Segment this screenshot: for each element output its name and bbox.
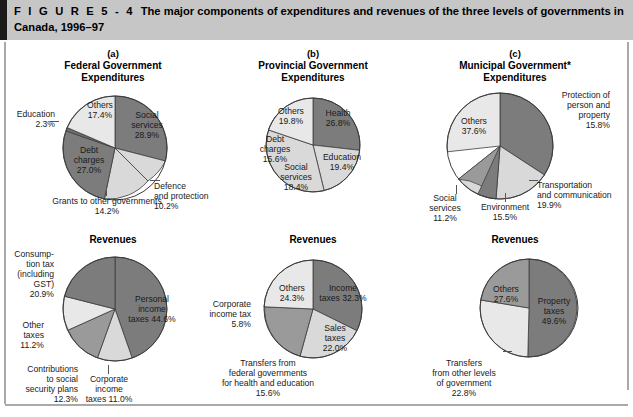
label-protection-person-property: Protection of person and property 15.8% xyxy=(534,90,610,130)
label-income-taxes-provincial: Income taxes 32.3% xyxy=(313,283,373,303)
leader-grants xyxy=(106,186,107,196)
leader-corporate-federal xyxy=(108,365,109,374)
panel-letter-c: (c) xyxy=(410,48,620,59)
leader-social-municipal xyxy=(456,185,457,194)
label-debt-charges-provincial: Debt charges 15.6% xyxy=(253,134,297,164)
label-corporate-income-tax-provincial: Corporate income tax 5.8% xyxy=(189,299,251,329)
label-consumption-tax-gst: Consump- tion tax (including GST) 20.9% xyxy=(0,249,54,299)
right-rule xyxy=(627,42,629,390)
panel-title-a: Federal Government Expenditures xyxy=(8,60,218,83)
panel-title-c-line1: Municipal Government* xyxy=(410,60,620,72)
label-others-municipal-exp: Others 37.6% xyxy=(450,116,498,136)
label-transfers-federal-health-education: Transfers from federal governments for h… xyxy=(209,358,327,398)
label-environment-municipal: Environment 15.5% xyxy=(474,202,536,222)
label-social-services-federal: Social services 28.9% xyxy=(121,110,173,140)
panel-title-c-line2: Expenditures xyxy=(410,72,620,84)
figure-number: F I G U R E 5 - 4 xyxy=(14,5,135,17)
panel-title-provincial-revenues-text: Revenues xyxy=(208,234,418,246)
panel-title-c: Municipal Government* Expenditures xyxy=(410,60,620,83)
label-others-provincial-exp: Others 19.8% xyxy=(267,106,315,126)
label-transfers-other-levels: Transfers from other levels of governmen… xyxy=(418,358,510,398)
panel-title-b: Provincial Government Expenditures xyxy=(208,60,418,83)
label-health-provincial: Health 26.8% xyxy=(316,108,360,128)
bottom-rule xyxy=(5,404,628,406)
panel-title-b-line1: Provincial Government xyxy=(208,60,418,72)
label-education-federal: Education 2.3% xyxy=(0,109,55,129)
panel-title-federal-revenues-text: Revenues xyxy=(8,234,218,246)
label-social-services-provincial: Social services 18.4% xyxy=(272,162,320,192)
panel-letter-b: (b) xyxy=(208,48,418,59)
label-personal-income-taxes: Personal income taxes 44.6% xyxy=(119,294,185,324)
leader-education xyxy=(50,121,59,122)
header-accent-bar xyxy=(0,0,7,40)
panel-title-municipal-revenues-text: Revenues xyxy=(410,234,620,246)
leader-environment xyxy=(505,193,506,202)
panel-title-a-line2: Expenditures xyxy=(8,72,218,84)
panel-title-a-line1: Federal Government xyxy=(8,60,218,72)
label-social-services-municipal: Social services 11.2% xyxy=(421,193,469,223)
leader-defence xyxy=(150,180,160,181)
label-grants-other-governments: Grants to other governments 14.2% xyxy=(32,196,182,216)
panel-title-provincial-revenues: Revenues xyxy=(208,234,418,246)
leader-transfers-municipal xyxy=(503,351,512,352)
leader-transportation xyxy=(529,180,538,181)
label-others-municipal-rev: Others 27.6% xyxy=(482,284,530,304)
figure-header: F I G U R E 5 - 4The major components of… xyxy=(0,0,633,40)
label-others-federal-exp: Others 17.4% xyxy=(76,100,124,120)
label-sales-taxes-provincial: Sales taxes 22.0% xyxy=(313,323,357,353)
label-contributions-social-security: Contributions to social security plans 1… xyxy=(0,364,78,404)
panel-letter-a: (a) xyxy=(8,48,218,59)
label-other-taxes-federal: Other taxes 11.2% xyxy=(0,320,44,350)
label-property-taxes: Property taxes 49.6% xyxy=(529,296,579,326)
label-others-provincial-rev: Others 24.3% xyxy=(268,283,316,303)
label-transportation-communication: Transportation and communication 19.9% xyxy=(537,180,629,210)
label-debt-charges-federal: Debt charges 27.0% xyxy=(64,145,114,175)
panel-title-b-line2: Expenditures xyxy=(208,72,418,84)
figure-caption: F I G U R E 5 - 4The major components of… xyxy=(14,3,626,35)
label-education-provincial: Education 19.4% xyxy=(316,152,368,172)
figure-container: F I G U R E 5 - 4The major components of… xyxy=(0,0,633,417)
panel-title-federal-revenues: Revenues xyxy=(8,234,218,246)
label-corporate-income-taxes-federal: Corporate income taxes 11.0% xyxy=(78,374,140,404)
panel-title-municipal-revenues: Revenues xyxy=(410,234,620,246)
